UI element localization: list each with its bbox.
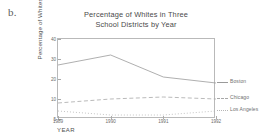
series-line-chicago: [58, 97, 216, 103]
x-axis-tick-label: 1990: [106, 119, 116, 124]
x-axis-tick-label: 1991: [158, 119, 168, 124]
chart-title-line-1: Percentage of Whites in Three: [46, 10, 226, 20]
y-axis-tick-label: 10: [51, 97, 56, 102]
legend-line-swatch: [217, 82, 228, 83]
legend-label: Boston: [230, 78, 246, 84]
x-axis-tick-label: 1992: [211, 119, 221, 124]
part-label: b.: [8, 6, 17, 18]
series-line-los-angeles: [58, 111, 216, 115]
y-axis-tick-label: 20: [51, 77, 56, 82]
legend-label: Chicago: [230, 94, 249, 100]
legend-line-swatch: [217, 110, 228, 111]
figure-panel: b. Percentage of Whites in Three School …: [0, 0, 268, 138]
y-axis-tick-mark: [58, 99, 61, 100]
y-axis-label: Percentage of Whites: [36, 0, 46, 66]
chart-title: Percentage of Whites in Three School Dis…: [46, 10, 226, 30]
legend-line-swatch: [217, 98, 228, 99]
legend-label: Los Angeles: [230, 106, 258, 112]
plot-lines: [58, 39, 216, 119]
x-axis-tick-label: 1989: [53, 119, 63, 124]
y-axis-tick-label: 40: [51, 37, 56, 42]
y-axis-tick-mark: [58, 59, 61, 60]
y-axis-tick-mark: [58, 39, 61, 40]
plot-area: 4030201051989199019911992: [57, 38, 215, 118]
series-line-boston: [58, 55, 216, 83]
x-axis-label: YEAR: [57, 127, 75, 133]
y-axis-tick-label: 30: [51, 57, 56, 62]
y-axis-tick-mark: [58, 79, 61, 80]
chart-title-line-2: School Districts by Year: [46, 20, 226, 30]
